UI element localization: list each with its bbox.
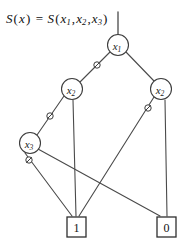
bdd-figure: S(x) = S(x1,x2,x3) <box>0 0 177 245</box>
node-x1[interactable]: x1 <box>108 35 129 56</box>
complement-marker-x2-left-x3 <box>47 113 53 119</box>
edge-x2-left-to-terminal-1 <box>73 100 76 216</box>
edge-x1-to-x2-right <box>126 52 154 81</box>
bdd-graph: x1 x2 x2 x3 1 0 <box>0 0 177 245</box>
edge-x2-right-to-terminal-0 <box>165 100 167 216</box>
node-x3[interactable]: x3 <box>20 133 41 154</box>
edge-x3-to-terminal-1 <box>25 153 72 216</box>
node-x2-right[interactable]: x2 <box>151 79 172 100</box>
terminal-node-1[interactable]: 1 <box>67 217 86 237</box>
complement-marker-x2-right-terminal-1 <box>145 105 151 111</box>
terminal-1-label: 1 <box>74 221 80 235</box>
complement-marker-x1-x2-left <box>94 62 100 68</box>
terminal-node-0[interactable]: 0 <box>157 217 176 237</box>
terminal-0-label: 0 <box>164 221 170 235</box>
edge-x2-right-to-terminal-1 <box>79 97 154 216</box>
edge-x3-to-terminal-0 <box>38 149 160 216</box>
node-x2-left[interactable]: x2 <box>62 79 83 100</box>
complement-marker-x3-terminal-1 <box>26 157 32 163</box>
